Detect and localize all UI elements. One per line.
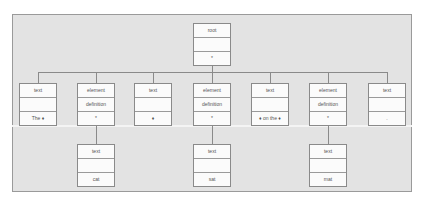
connector-2 <box>96 72 97 83</box>
node-label: text <box>310 145 346 159</box>
node-middle: definition <box>194 98 230 112</box>
connector-4 <box>212 72 213 83</box>
connector-6 <box>328 72 329 83</box>
child-connector-sat <box>212 123 213 144</box>
text-node-cat: text cat <box>77 144 115 187</box>
node-content: ♦ on the ♦ <box>252 112 288 125</box>
node-label: root <box>194 24 230 38</box>
node-label: text <box>194 145 230 159</box>
node-content: * <box>194 112 230 125</box>
node-label: text <box>135 84 171 98</box>
node-middle <box>78 159 114 173</box>
connector-3 <box>153 72 154 83</box>
sibling-bus-connector <box>38 72 388 73</box>
connector-5 <box>270 72 271 83</box>
node-label: text <box>252 84 288 98</box>
root-node: root * <box>193 23 231 66</box>
node-content: * <box>78 112 114 125</box>
node-content: * <box>310 112 346 125</box>
node-content: cat <box>78 173 114 186</box>
child-connector-mat <box>328 123 329 144</box>
element-definition-node-3: element definition * <box>309 83 347 126</box>
connector-7 <box>387 72 388 83</box>
node-label: element <box>310 84 346 98</box>
node-content: * <box>194 52 230 65</box>
node-label: element <box>194 84 230 98</box>
text-node-the: text The ♦ <box>19 83 57 126</box>
node-middle <box>369 98 405 112</box>
node-middle: definition <box>310 98 346 112</box>
element-definition-node-1: element definition * <box>77 83 115 126</box>
text-node-on-the: text ♦ on the ♦ <box>251 83 289 126</box>
node-middle <box>252 98 288 112</box>
node-content: sat <box>194 173 230 186</box>
node-middle: definition <box>78 98 114 112</box>
node-middle <box>194 159 230 173</box>
node-label: text <box>78 145 114 159</box>
text-node-sat: text sat <box>193 144 231 187</box>
connector-1 <box>38 72 39 83</box>
node-label: text <box>369 84 405 98</box>
node-middle <box>135 98 171 112</box>
element-definition-node-2: element definition * <box>193 83 231 126</box>
node-content: mat <box>310 173 346 186</box>
node-content: The ♦ <box>20 112 56 125</box>
text-node-diamond: text ♦ <box>134 83 172 126</box>
text-node-period: text . <box>368 83 406 126</box>
node-content: ♦ <box>135 112 171 125</box>
node-content: . <box>369 112 405 125</box>
node-label: element <box>78 84 114 98</box>
node-middle <box>194 38 230 52</box>
node-middle <box>20 98 56 112</box>
node-middle <box>310 159 346 173</box>
child-connector-cat <box>96 123 97 144</box>
node-label: text <box>20 84 56 98</box>
text-node-mat: text mat <box>309 144 347 187</box>
